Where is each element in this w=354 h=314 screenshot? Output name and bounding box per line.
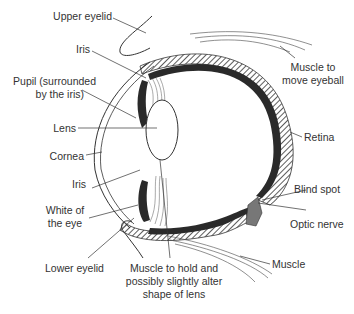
label-ciliary-line3: shape of lens [114, 288, 234, 301]
label-white-of-eye-line2: the eye [40, 217, 90, 230]
label-lens: Lens [30, 122, 76, 135]
upper-eyelid [120, 16, 152, 55]
label-muscle-eyeball-line2: move eyeball [278, 74, 348, 87]
label-upper-eyelid: Upper eyelid [38, 10, 112, 23]
optic-nerve [246, 197, 262, 226]
label-pupil-line1: Pupil (surrounded [4, 75, 96, 88]
label-white-of-eye-line1: White of [40, 204, 90, 217]
label-optic-nerve: Optic nerve [290, 218, 344, 231]
iris-bottom-shape [138, 180, 150, 222]
label-cornea: Cornea [24, 150, 84, 163]
label-lower-eyelid: Lower eyelid [45, 262, 104, 275]
label-pupil-line2: by the iris) [4, 88, 84, 101]
label-muscle: Muscle [272, 258, 305, 271]
label-ciliary-line1: Muscle to hold and [114, 262, 234, 275]
label-blind-spot: Blind spot [294, 183, 340, 196]
label-iris-bottom: Iris [50, 178, 86, 191]
label-iris-top: Iris [58, 43, 90, 56]
label-muscle-eyeball-line1: Muscle to [278, 61, 348, 74]
label-ciliary-line2: possibly slightly alter [114, 275, 234, 288]
label-retina: Retina [304, 131, 334, 144]
lens [146, 100, 178, 160]
